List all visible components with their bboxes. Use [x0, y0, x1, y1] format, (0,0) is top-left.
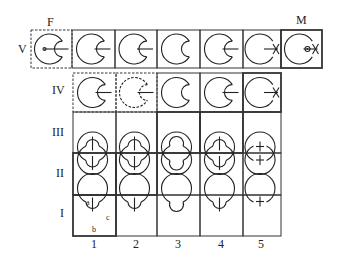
row-label-i: I [60, 206, 64, 220]
cell-II-2 [116, 132, 157, 195]
cell-V-4 [200, 30, 243, 68]
row-label-iv: IV [52, 83, 65, 97]
circle-grid-diagram: F M V IV III II I 1 2 3 4 5 a b c [0, 0, 343, 268]
label-f: F [47, 15, 54, 29]
col-label-2: 2 [133, 237, 139, 251]
cell-III-4 [200, 112, 243, 175]
cell-V-5 [243, 30, 281, 68]
cell-V-M [281, 30, 322, 68]
cell-I-4 [200, 173, 243, 236]
letter-a: a [86, 198, 90, 207]
cell-I-5 [243, 173, 281, 236]
cell-II-4 [200, 132, 243, 195]
row-label-v: V [18, 42, 27, 56]
inner-circle [181, 85, 189, 101]
cell-IV-1 [73, 73, 116, 112]
cell-border [157, 30, 200, 68]
col-label-3: 3 [175, 237, 181, 251]
outer-circle [162, 173, 192, 202]
cell-II-1 [73, 132, 116, 195]
letter-c: c [106, 213, 110, 222]
cell-IV-5 [243, 73, 281, 112]
cell-I-3 [157, 173, 200, 236]
dot [307, 48, 309, 50]
inner-circle [181, 41, 189, 57]
label-m: M [296, 13, 307, 27]
cell-III-2 [116, 112, 157, 175]
cell-III-5 [243, 112, 281, 175]
inner-circle [170, 160, 184, 170]
cell-border [157, 73, 200, 112]
cell-V-3 [157, 30, 200, 68]
cell-I-2 [116, 173, 157, 236]
cell-II-3 [157, 132, 200, 195]
col-label-1: 1 [91, 237, 97, 251]
cell-V-2 [115, 30, 157, 68]
outer-circle [162, 78, 190, 108]
cell-V-F [31, 30, 72, 68]
cell-IV-4 [200, 73, 243, 112]
cell-III-3 [157, 112, 200, 175]
inner-circle [170, 202, 184, 212]
cell-IV-2 [116, 73, 157, 112]
cell-IV-3 [157, 73, 200, 112]
cell-border [116, 195, 157, 236]
cell-border [157, 195, 200, 236]
cell-V-1 [72, 30, 115, 68]
col-label-5: 5 [258, 237, 264, 251]
row-label-ii: II [56, 166, 64, 180]
row-label-iii: III [52, 125, 64, 139]
outer-circle [162, 34, 190, 64]
cell-border [200, 195, 243, 236]
cell-III-1 [73, 112, 116, 175]
col-label-4: 4 [218, 237, 224, 251]
inner-circle [170, 136, 184, 146]
letter-b: b [92, 225, 96, 234]
